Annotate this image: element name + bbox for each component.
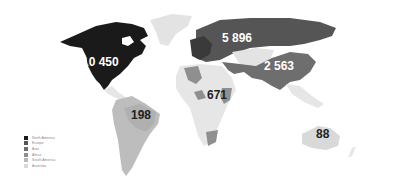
legend-item-europe: Europe xyxy=(24,141,55,146)
legend-swatch xyxy=(24,136,28,140)
region-southeast-asia xyxy=(286,84,324,108)
legend-item-australia: Australia xyxy=(24,163,55,168)
label-africa: 671 xyxy=(207,89,227,101)
legend-swatch xyxy=(24,141,28,145)
map-legend: North America Europe Asia Africa South A… xyxy=(24,135,55,169)
legend-label: Europe xyxy=(32,141,44,145)
label-north-america: 10 450 xyxy=(82,56,119,68)
legend-item-south-america: South America xyxy=(24,158,55,163)
legend-label: Asia xyxy=(32,147,39,151)
label-south-america: 198 xyxy=(131,109,151,121)
label-europe: 5 896 xyxy=(222,32,252,44)
label-asia: 2 563 xyxy=(264,60,294,72)
legend-swatch xyxy=(24,164,28,168)
legend-swatch xyxy=(24,153,28,157)
legend-label: North America xyxy=(32,136,55,140)
legend-label: South America xyxy=(32,158,55,162)
legend-item-asia: Asia xyxy=(24,146,55,151)
region-greenland xyxy=(150,14,192,46)
legend-item-africa: Africa xyxy=(24,152,55,157)
legend-item-north-america: North America xyxy=(24,135,55,140)
legend-label: Australia xyxy=(32,164,46,168)
legend-swatch xyxy=(24,158,28,162)
legend-swatch xyxy=(24,147,28,151)
region-new-zealand xyxy=(348,146,356,158)
legend-label: Africa xyxy=(32,153,41,157)
world-map xyxy=(0,0,400,180)
region-south-africa xyxy=(206,130,218,146)
label-australia: 88 xyxy=(316,128,329,140)
region-africa xyxy=(176,64,236,146)
